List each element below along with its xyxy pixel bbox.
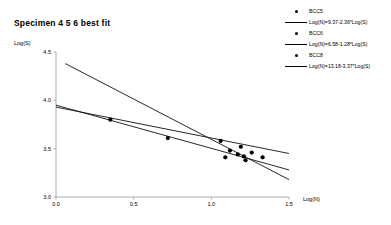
legend-row: BCC6	[283, 28, 370, 39]
axis-lines	[56, 52, 289, 197]
legend-row: Log(N)=13.18-3.37*Log(S)	[283, 61, 370, 72]
y-tick-label: 3.0	[29, 194, 51, 200]
legend-marker-icon	[295, 54, 298, 57]
y-axis-label: Log(S)	[14, 40, 31, 46]
legend-marker-key	[283, 32, 309, 35]
fit-lines	[56, 64, 289, 180]
legend-label: BCC6	[309, 31, 323, 36]
legend-row: BCC8	[283, 50, 370, 61]
data-point	[228, 149, 232, 153]
plot-svg	[56, 52, 289, 197]
legend-row: Log(N)=6.58-1.28*Log(S)	[283, 39, 370, 50]
y-tick-label: 4.5	[29, 49, 51, 55]
x-axis-label: Log(N)	[303, 196, 320, 202]
legend-row: Log(N)=9.37-2.36*Log(S)	[283, 17, 370, 28]
legend-label: BCC5	[309, 9, 323, 14]
x-tick-label: 0.5	[122, 201, 146, 207]
data-point	[243, 158, 247, 162]
data-points	[108, 118, 264, 163]
y-tick-label: 3.5	[29, 146, 51, 152]
x-tick-label: 1.5	[277, 201, 301, 207]
fit-line-bcc6	[56, 105, 289, 170]
data-point	[108, 118, 112, 122]
x-tick-label: 1.0	[199, 201, 223, 207]
chart-legend: BCC5Log(N)=9.37-2.36*Log(S)BCC6Log(N)=6.…	[283, 6, 370, 72]
data-point	[239, 145, 243, 149]
chart-title: Specimen 4 5 6 best fit	[14, 18, 110, 28]
legend-label: Log(N)=13.18-3.37*Log(S)	[309, 64, 370, 69]
x-tick-label: 0.0	[44, 201, 68, 207]
legend-marker-icon	[295, 10, 298, 13]
legend-marker-icon	[295, 32, 298, 35]
legend-line-key	[283, 22, 309, 23]
legend-row: BCC5	[283, 6, 370, 17]
data-point	[250, 150, 254, 154]
data-point	[166, 136, 170, 140]
legend-line-icon	[285, 44, 307, 45]
legend-line-key	[283, 66, 309, 67]
legend-line-icon	[285, 66, 307, 67]
data-point	[219, 139, 223, 143]
y-tick-label: 4.0	[29, 97, 51, 103]
fit-line-bcc5	[56, 107, 289, 153]
data-point	[260, 155, 264, 159]
legend-label: Log(N)=6.58-1.28*Log(S)	[309, 42, 367, 47]
data-point	[223, 155, 227, 159]
fit-line-bcc8	[65, 64, 289, 180]
legend-line-key	[283, 44, 309, 45]
data-point	[236, 152, 240, 156]
data-point	[242, 154, 246, 158]
chart-container: Specimen 4 5 6 best fit Log(S) Log(N) 4.…	[0, 0, 391, 225]
legend-marker-key	[283, 54, 309, 57]
legend-label: Log(N)=9.37-2.36*Log(S)	[309, 20, 367, 25]
legend-marker-key	[283, 10, 309, 13]
legend-line-icon	[285, 22, 307, 23]
plot-area	[56, 52, 289, 197]
legend-label: BCC8	[309, 53, 323, 58]
axis-tick-marks	[54, 52, 290, 200]
